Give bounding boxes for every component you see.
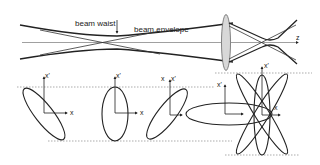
- phase-panel-3: x x': [141, 75, 193, 144]
- phase-panel-1: x' x: [17, 72, 74, 145]
- beam-envelope-label: beam envelope: [134, 25, 189, 34]
- beam-optics-diagram: z beam waist beam envelope x' x: [0, 0, 320, 165]
- x-prime-label-4a: x': [217, 81, 222, 88]
- phase-space-panels: x' x x' x x x' x': [17, 62, 312, 158]
- beam-envelope-diagram: z beam waist beam envelope: [20, 15, 300, 71]
- x-prime-label-4b: x': [264, 62, 269, 69]
- x-prime-label-3: x': [171, 75, 176, 82]
- x-label-4b: x: [274, 104, 278, 111]
- phase-panel-4: x' x' x: [186, 62, 293, 158]
- x-prime-label-2: x': [116, 72, 121, 79]
- envelope-lower-after-lens: [229, 45, 297, 64]
- phase-ellipse-3: [141, 84, 193, 144]
- envelope-lower: [20, 49, 233, 62]
- x-label-3-top: x: [161, 75, 165, 82]
- envelope-upper: [20, 23, 233, 36]
- phase-panel-2: x' x: [102, 72, 144, 141]
- beam-waist-label: beam waist: [75, 19, 116, 28]
- x-label-1: x: [70, 109, 74, 116]
- x-prime-label-1: x': [45, 72, 50, 79]
- x-label-2: x: [140, 109, 144, 116]
- z-axis-label: z: [296, 34, 300, 41]
